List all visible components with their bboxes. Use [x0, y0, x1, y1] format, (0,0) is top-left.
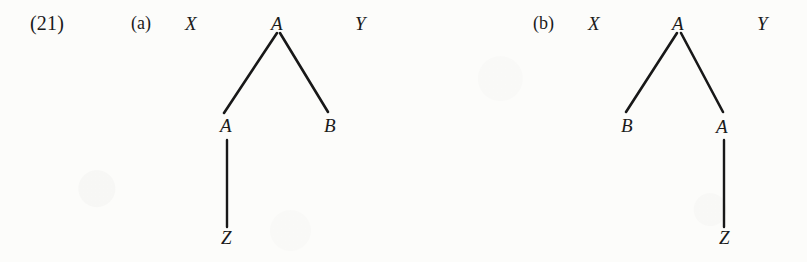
diagram-a-right-bracket: Y [355, 14, 366, 33]
example-number: (21) [30, 13, 64, 33]
diagram-b-node-right-child: A [716, 117, 728, 136]
diagram-b-label: (b) [533, 14, 554, 32]
diagram-b-edge-root-to-left-child [626, 33, 677, 112]
diagram-a-edges [224, 33, 328, 227]
diagram-b-node-root: A [672, 14, 684, 33]
diagram-a-node-leaf: Z [221, 228, 232, 247]
diagram-b-edges [626, 33, 724, 227]
diagram-b-right-bracket: Y [757, 14, 768, 33]
diagram-b-edge-root-to-right-child [681, 33, 723, 112]
diagram-a-node-root: A [271, 14, 283, 33]
figure-page: (21) (a) X Y A A B Z (b) X Y A B A Z [0, 0, 807, 262]
diagram-b-node-leaf: Z [719, 228, 730, 247]
diagram-a-left-bracket: X [185, 14, 197, 33]
diagram-a-node-right-child: B [324, 116, 336, 135]
diagram-a-edge-root-to-left-child [224, 33, 277, 113]
diagram-a-node-left-child: A [220, 116, 232, 135]
diagram-b-node-left-child: B [621, 116, 633, 135]
diagram-a-edge-root-to-right-child [280, 33, 328, 112]
diagram-b-left-bracket: X [588, 14, 600, 33]
diagram-a-label: (a) [131, 14, 151, 32]
tree-edges [0, 0, 807, 262]
